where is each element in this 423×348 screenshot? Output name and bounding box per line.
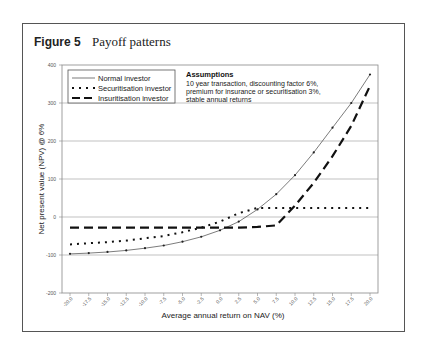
data-point — [331, 127, 333, 129]
assumptions-line-2: premium for insurance or securitisation … — [186, 88, 321, 96]
y-tick-label: 0 — [53, 214, 56, 220]
x-tick-label: -17.5 — [80, 295, 92, 307]
legend-label-normal: Normal investor — [98, 74, 151, 83]
legend-label-insuritisation: Insuritisation investor — [98, 94, 169, 103]
x-tick-label: -20.0 — [61, 295, 73, 307]
x-tick-label: -12.5 — [118, 295, 130, 307]
x-tick-label: 15.0 — [325, 295, 336, 306]
x-tick-label: 5.0 — [252, 295, 261, 304]
y-tick-label: -100 — [46, 252, 56, 258]
assumptions-line-1: 10 year transaction, discounting factor … — [186, 80, 318, 88]
assumptions-title: Assumptions — [186, 70, 234, 79]
data-point — [88, 252, 90, 254]
data-point — [350, 102, 352, 104]
y-tick-label: 300 — [48, 100, 57, 106]
x-tick-label: 7.5 — [271, 295, 280, 304]
x-axis-label: Average annual return on NAV (%) — [162, 311, 285, 320]
y-axis-label: Net present value (NPV) @ 6% — [37, 124, 46, 235]
x-tick-label: -5.0 — [176, 295, 186, 305]
y-tick-label: 200 — [48, 138, 57, 144]
x-tick-label: -10.0 — [136, 295, 148, 307]
x-tick-label: -2.5 — [195, 295, 205, 305]
data-point — [125, 249, 127, 251]
data-point — [275, 193, 277, 195]
data-point — [163, 244, 165, 246]
series-line-securitisation-investor — [70, 208, 370, 245]
x-tick-label: 0.0 — [215, 295, 224, 304]
y-tick-label: -200 — [46, 290, 56, 296]
data-point — [369, 73, 371, 75]
y-axis-ticks: -200-1000100200300400 — [46, 62, 62, 296]
legend-label-securitisation: Securitisation investor — [98, 84, 172, 93]
y-tick-label: 100 — [48, 176, 57, 182]
data-point — [219, 229, 221, 231]
data-point — [238, 220, 240, 222]
x-tick-label: -7.5 — [157, 295, 167, 305]
data-point — [294, 174, 296, 176]
data-point — [181, 241, 183, 243]
data-point — [106, 251, 108, 253]
x-tick-label: -15.0 — [99, 295, 111, 307]
assumptions-note: Assumptions 10 year transaction, discoun… — [186, 70, 321, 103]
legend: Normal investor Securitisation investor … — [68, 70, 175, 103]
data-point — [200, 236, 202, 238]
payoff-chart: -200-1000100200300400 -20.0-17.5-15.0-12… — [0, 0, 423, 348]
assumptions-line-3: stable annual returns — [186, 96, 252, 103]
x-axis-ticks: -20.0-17.5-15.0-12.5-10.0-7.5-5.0-2.50.0… — [61, 293, 373, 308]
x-tick-label: 12.5 — [306, 295, 317, 306]
x-tick-label: 20.0 — [363, 295, 374, 306]
y-tick-label: 400 — [48, 62, 57, 68]
x-tick-label: 10.0 — [288, 295, 299, 306]
gridlines — [62, 103, 378, 255]
data-point — [144, 247, 146, 249]
data-point — [313, 151, 315, 153]
x-tick-label: 17.5 — [344, 295, 355, 306]
data-point — [256, 208, 258, 210]
data-point — [69, 253, 71, 255]
series-line-insuritisation-investor — [70, 86, 370, 228]
x-tick-label: 2.5 — [233, 295, 242, 304]
